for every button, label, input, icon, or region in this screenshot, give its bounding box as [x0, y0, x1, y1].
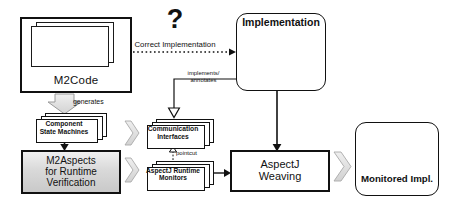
edge-weaving-to-monitored	[334, 152, 351, 181]
node-aspectj-weaving-label: AspectJ Weaving	[230, 158, 330, 183]
node-communication-interfaces-label: Communication Interfaces	[144, 125, 202, 140]
edge-implementation-to-weaving	[273, 91, 282, 152]
node-component-state-machines-label: Component State Machines	[33, 120, 95, 135]
node-monitored-impl	[355, 122, 439, 196]
node-aspectj-runtime-monitors-label: AspectJ Runtime Monitors	[144, 167, 202, 182]
edge-m2aspects-to-ci	[125, 121, 139, 145]
question-mark-icon: ?	[150, 6, 200, 33]
edge-label-implements-annotates: implements/ annotates	[180, 70, 227, 85]
node-m2code-label: M2Code	[20, 74, 132, 87]
node-monitored-impl-label: Monitored Impl.	[355, 174, 439, 185]
m2code-sheet-back-1	[31, 26, 109, 67]
edge-m2aspects-to-arm	[125, 158, 139, 182]
edge-label-correct-implementation: Correct Implementation	[128, 41, 222, 50]
node-implementation-label: Implementation	[236, 17, 326, 29]
edge-label-pointcut: pointcut	[176, 150, 208, 157]
edge-implements-annotates	[169, 79, 236, 118]
edge-arm-to-weaving	[214, 169, 231, 177]
workflow-diagram: M2Code ? Correct Implementation Implemen…	[0, 0, 455, 209]
edge-label-generates: generates	[73, 98, 113, 106]
node-m2aspects-label: M2Aspects for Runtime Verification	[21, 155, 121, 189]
